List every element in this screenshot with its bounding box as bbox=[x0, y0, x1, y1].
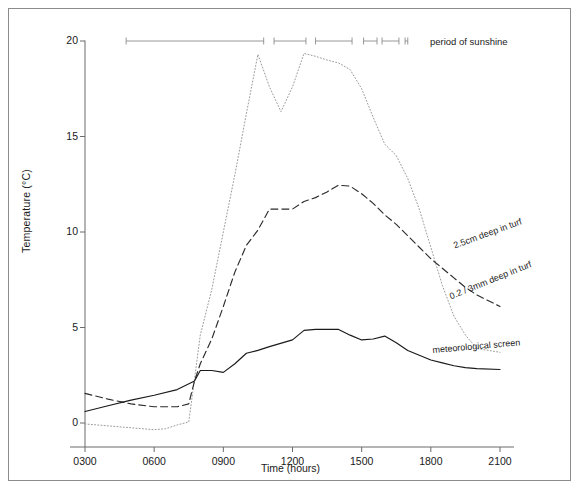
chart-plot bbox=[0, 0, 581, 491]
x-tick-label: 0600 bbox=[132, 455, 176, 467]
x-tick-label: 1200 bbox=[271, 455, 315, 467]
sunshine-legend-label: period of sunshine bbox=[430, 36, 508, 47]
x-tick-label: 0900 bbox=[201, 455, 245, 467]
y-tick-label: 15 bbox=[52, 130, 78, 142]
y-tick-label: 0 bbox=[52, 416, 78, 428]
y-tick-label: 5 bbox=[52, 321, 78, 333]
series-line-dashed bbox=[85, 185, 500, 407]
x-tick-label: 2100 bbox=[478, 455, 522, 467]
x-tick-label: 1500 bbox=[340, 455, 384, 467]
y-axis-label: Temperature (°C) bbox=[20, 141, 32, 281]
series-line-solid bbox=[85, 329, 500, 411]
x-tick-label: 0300 bbox=[63, 455, 107, 467]
y-tick-label: 20 bbox=[52, 34, 78, 46]
y-tick-label: 10 bbox=[52, 225, 78, 237]
series-line-dotted bbox=[85, 53, 500, 429]
x-tick-label: 1800 bbox=[409, 455, 453, 467]
chart-page: Temperature (°C) Time (hours) period of … bbox=[0, 0, 581, 491]
